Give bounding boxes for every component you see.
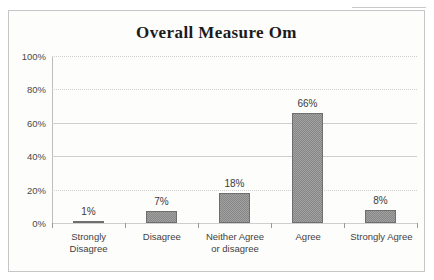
x-axis-label-line: Disagree <box>53 243 124 255</box>
bars-group: 1%7%18%66%8% <box>52 56 417 223</box>
y-tick-label: 80% <box>27 84 46 95</box>
x-axis-label-line: Strongly <box>53 231 124 243</box>
bar-value-label: 18% <box>224 178 244 189</box>
bar[interactable] <box>73 221 104 223</box>
x-tick-mark <box>198 223 199 228</box>
x-tick-mark <box>344 223 345 228</box>
bar[interactable] <box>219 193 250 223</box>
gridline-0 <box>52 223 417 224</box>
bar-slot: 7% <box>125 56 198 223</box>
bar-slot: 18% <box>198 56 271 223</box>
x-tick-mark <box>52 223 53 228</box>
x-axis-label: Agree <box>272 231 345 255</box>
scan-artifact-line <box>352 7 426 8</box>
x-axis-label: Disagree <box>125 231 198 255</box>
bar-value-label: 8% <box>373 195 387 206</box>
bar-value-label: 7% <box>154 196 168 207</box>
y-tick-label: 40% <box>27 151 46 162</box>
bar[interactable] <box>146 211 177 223</box>
x-axis-label: Neither Agreeor disagree <box>198 231 271 255</box>
bar-slot: 66% <box>271 56 344 223</box>
y-tick-label: 0% <box>32 218 46 229</box>
x-axis-label-line: Strongly Agree <box>346 231 417 243</box>
x-axis-label: Strongly Agree <box>345 231 418 255</box>
y-tick-label: 20% <box>27 184 46 195</box>
plot-area: 0%20%40%60%80%100% 1%7%18%66%8% <box>52 56 417 223</box>
chart-container: Overall Measure Om 0%20%40%60%80%100% 1%… <box>8 10 425 272</box>
x-tick-mark <box>125 223 126 228</box>
x-axis-label-line: Neither Agree <box>199 231 270 243</box>
y-tick-label: 100% <box>22 51 46 62</box>
bar[interactable] <box>292 113 323 223</box>
x-axis-label-line: Disagree <box>126 231 197 243</box>
chart-title: Overall Measure Om <box>9 23 424 43</box>
x-axis-label: StronglyDisagree <box>52 231 125 255</box>
y-tick-label: 60% <box>27 117 46 128</box>
x-axis-label-line: or disagree <box>199 243 270 255</box>
x-axis-category-labels: StronglyDisagreeDisagreeNeither Agreeor … <box>52 231 418 255</box>
x-tick-mark <box>417 223 418 228</box>
bar[interactable] <box>365 210 396 223</box>
bar-value-label: 1% <box>81 206 95 217</box>
x-tick-mark <box>271 223 272 228</box>
x-axis-label-line: Agree <box>273 231 344 243</box>
bar-value-label: 66% <box>297 98 317 109</box>
bar-slot: 1% <box>52 56 125 223</box>
bar-slot: 8% <box>344 56 417 223</box>
